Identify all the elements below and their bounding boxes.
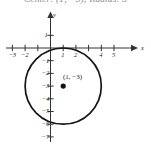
- center-point-marker: [61, 84, 66, 89]
- y-tick-label--2: −2: [42, 70, 50, 77]
- x-tick-label-2: 2: [74, 52, 77, 59]
- x-axis-arrowhead: [131, 45, 138, 51]
- y-tick-label--3: −3: [42, 83, 50, 90]
- x-axis-label: x: [141, 45, 144, 52]
- x-tick-label--3: −3: [8, 52, 16, 59]
- y-tick-label--1: −1: [42, 58, 50, 65]
- y-tick-label--7: −7: [42, 134, 50, 141]
- x-tick-label--2: −2: [21, 52, 29, 59]
- x-tick-label-5: 5: [112, 52, 115, 59]
- y-tick-label-1: 1: [45, 32, 48, 39]
- center-point-label: (1, −3): [63, 74, 82, 81]
- y-axis-label: y: [53, 12, 56, 19]
- y-tick-label--6: −6: [42, 121, 50, 128]
- x-tick-label-4: 4: [99, 52, 102, 59]
- y-tick-label--4: −4: [42, 96, 50, 103]
- x-tick-label-1: 1: [61, 52, 64, 59]
- y-tick-label--5: −5: [42, 108, 50, 115]
- circle-graph-figure: Center: (1, −3); Radius: 3: [0, 0, 151, 146]
